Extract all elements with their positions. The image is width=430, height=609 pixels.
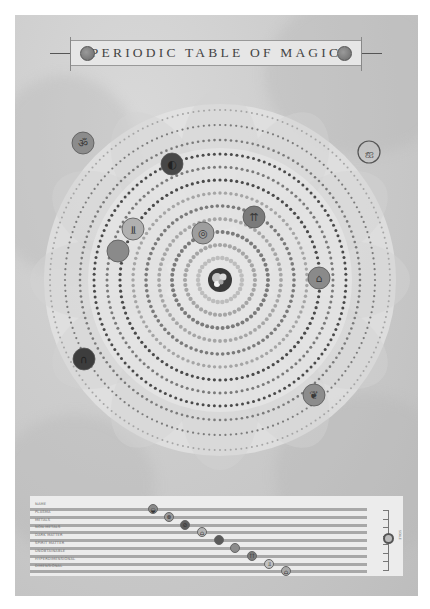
arch-door-icon: ∩ (73, 348, 95, 370)
legend-row: UNOBTAINABLE (30, 550, 403, 558)
svg-text:⇈: ⇈ (249, 211, 258, 224)
svg-text:⫫: ⫫ (130, 223, 136, 236)
dark-moon-icon: ◐ (161, 153, 183, 175)
legend-row: HYPERDIMENSIONAL (30, 558, 403, 566)
svg-text:⌂: ⌂ (316, 272, 323, 285)
legend-row: METALS (30, 519, 403, 527)
legend-label: NAME (35, 502, 46, 506)
svg-text:ॐ: ॐ (78, 137, 88, 150)
scale-tick (383, 527, 389, 528)
trident-up-icon: ⇈ (243, 206, 265, 228)
legend-row: SPIRIT MATTER (30, 542, 403, 550)
svg-text:ஐ: ஐ (365, 146, 374, 159)
legend-label: PLASMA (35, 510, 51, 514)
outlined-rune-icon: ஐ (358, 141, 380, 163)
legend-label: HYPERDIMENSIONAL (35, 557, 75, 561)
legend-bar (30, 570, 367, 573)
legend-label: DIMENSIONAL (35, 564, 62, 568)
scale-knob-icon (383, 533, 394, 544)
mandala-chart: ॐ◐⇈⫫◎⌂∩❦ஐ (15, 15, 418, 485)
gateway-icon: ⌂ (308, 267, 330, 289)
legend-label: SPIRIT MATTER (35, 541, 64, 545)
legend-label: METALS (35, 518, 50, 522)
svg-text:❦: ❦ (309, 389, 318, 402)
om-symbol-icon: ॐ (72, 132, 94, 154)
scale-tick (383, 553, 389, 554)
legend-panel: NAME◒PLASMA⊗METALS⊘NON-METALS⌂DARK MATTE… (30, 496, 403, 576)
svg-text:∩: ∩ (80, 353, 88, 366)
svg-text:◎: ◎ (198, 227, 208, 240)
core-element (208, 268, 232, 292)
trident-down-icon: ⫫ (122, 218, 144, 240)
legend-label: DARK MATTER (35, 533, 63, 537)
swirl-icon: ◎ (192, 222, 214, 244)
dimensional-icon: ⌂ (281, 566, 291, 576)
rune-icon: ❦ (303, 384, 325, 406)
svg-text:◐: ◐ (167, 158, 177, 171)
scale-tick (383, 510, 389, 511)
legend-row: PLASMA (30, 511, 403, 519)
scale-label: SCALE (398, 530, 402, 540)
scale-tick (383, 570, 389, 571)
gray-orb-icon (107, 240, 129, 262)
legend-label: UNOBTAINABLE (35, 549, 65, 553)
scale-tick (383, 544, 389, 545)
legend-label: NON-METALS (35, 525, 61, 529)
legend-row: NAME (30, 503, 403, 511)
poster: PERIODIC TABLE OF MAGIC ॐ◐⇈⫫◎⌂∩❦ஐ NAME◒P… (15, 15, 418, 596)
scale-tick (383, 561, 389, 562)
legend-row: DIMENSIONAL (30, 565, 403, 573)
scale-tick (383, 519, 389, 520)
legend-row: NON-METALS (30, 526, 403, 534)
